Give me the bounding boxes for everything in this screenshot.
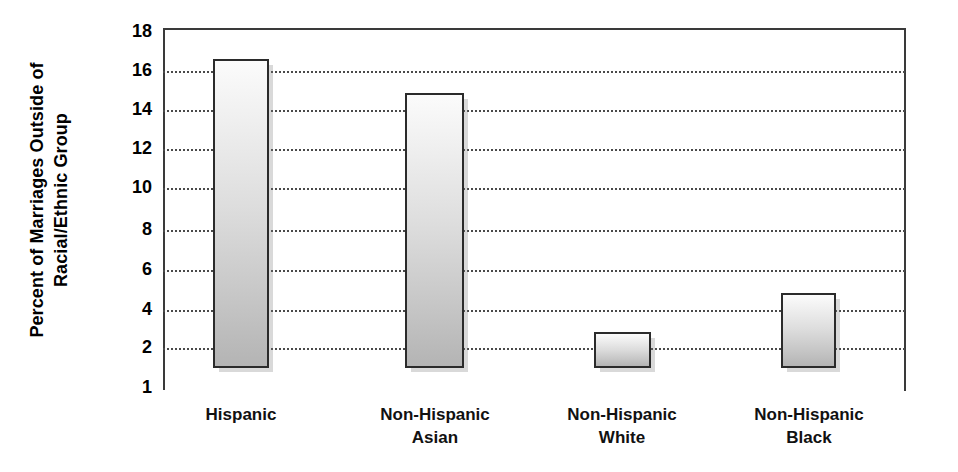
- gridline-16: [163, 71, 905, 73]
- x-label-non-hispanic-black: Non-Hispanic Black: [736, 404, 882, 450]
- y-tick-14: 14: [110, 100, 152, 118]
- y-tick-2: 2: [110, 338, 152, 356]
- gridline-8: [163, 230, 905, 232]
- y-tick-1: 1: [110, 378, 152, 396]
- y-tick-16: 16: [110, 61, 152, 79]
- y-axis-title: Percent of Marriages Outside of Racial/E…: [18, 0, 82, 400]
- x-label-non-hispanic-white: Non-Hispanic White: [549, 404, 695, 450]
- bar-non-hispanic-white[interactable]: [594, 332, 651, 368]
- gridline-14: [163, 110, 905, 112]
- gridline-10: [163, 188, 905, 190]
- y-axis-tick-labels: 18 16 14 12 10 8 6 4 2 1: [100, 0, 152, 472]
- x-label-non-hispanic-asian: Non-Hispanic Asian: [362, 404, 508, 450]
- x-label-hispanic: Hispanic: [170, 404, 312, 427]
- bar-non-hispanic-asian[interactable]: [405, 93, 464, 368]
- gridline-12: [163, 149, 905, 151]
- y-tick-4: 4: [110, 300, 152, 318]
- y-tick-8: 8: [110, 220, 152, 238]
- plot-right-border: [904, 28, 906, 391]
- y-tick-6: 6: [110, 260, 152, 278]
- bar-chart-figure: Percent of Marriages Outside of Racial/E…: [0, 0, 958, 472]
- bar-non-hispanic-black[interactable]: [781, 293, 836, 368]
- gridline-6: [163, 270, 905, 272]
- y-tick-12: 12: [110, 139, 152, 157]
- y-tick-10: 10: [110, 178, 152, 196]
- y-tick-18: 18: [110, 22, 152, 40]
- bar-hispanic[interactable]: [213, 59, 269, 368]
